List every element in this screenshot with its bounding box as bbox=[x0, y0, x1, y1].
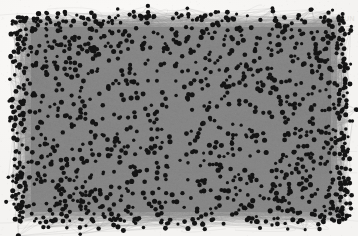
graph-plot-area bbox=[0, 0, 358, 236]
network-graph-figure: UN ST bbox=[0, 0, 358, 236]
